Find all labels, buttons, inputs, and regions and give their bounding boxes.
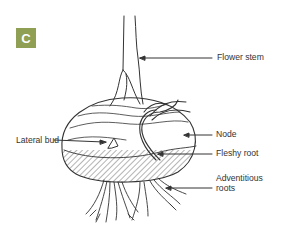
- label-fleshy-root: Fleshy root: [216, 149, 259, 159]
- label-adventitious-line2: roots: [216, 184, 263, 194]
- adventitious-roots: [86, 178, 186, 222]
- label-flower-stem: Flower stem: [217, 53, 264, 63]
- bulb-illustration: [0, 0, 281, 234]
- bulb-body: [55, 98, 205, 190]
- label-node: Node: [216, 130, 237, 140]
- label-lateral-bud: Lateral bud: [16, 136, 59, 146]
- lateral-bud: [108, 138, 118, 148]
- bulb-neck: [110, 70, 140, 106]
- label-adventitious-roots: Adventitious roots: [216, 174, 263, 194]
